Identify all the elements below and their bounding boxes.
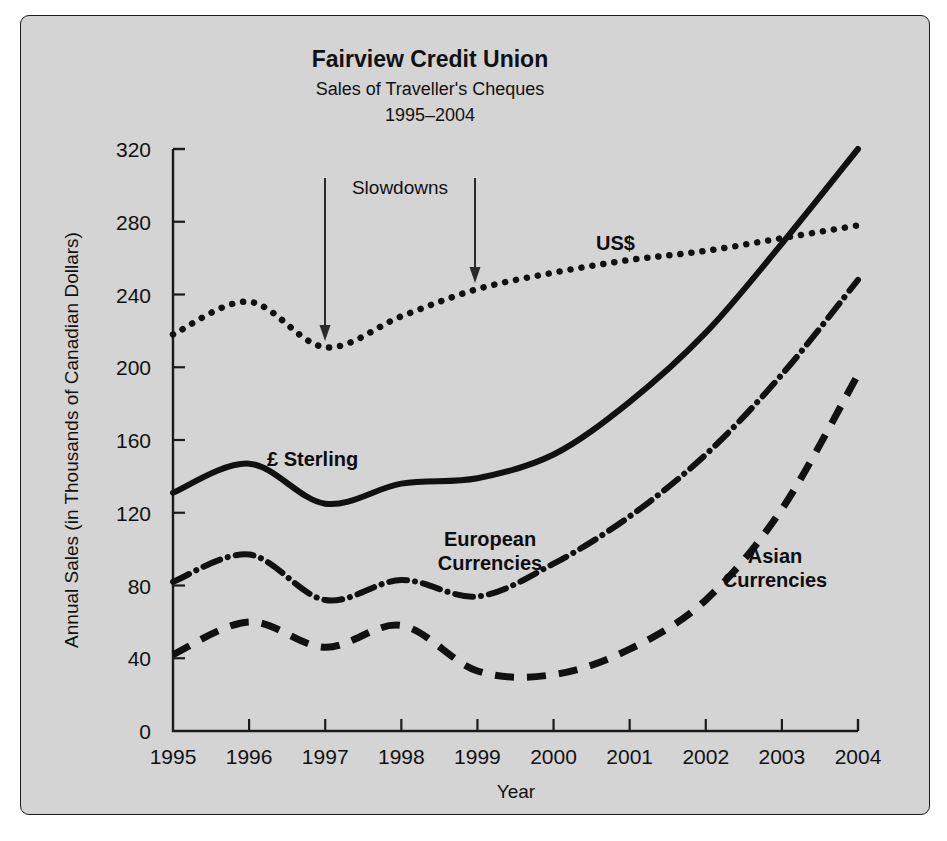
y-tick-label: 80: [128, 575, 151, 598]
series-line-asian: [173, 375, 858, 678]
axis-lines: [173, 149, 858, 731]
x-tick-label: 1997: [302, 745, 349, 768]
series-label-european-line1: European: [444, 528, 536, 550]
series-line-us-dollar: [173, 225, 858, 347]
y-tick-label: 280: [116, 211, 151, 234]
series-label-asian-line1: Asian: [748, 545, 802, 567]
x-axis-label: Year: [497, 781, 536, 802]
y-tick-label: 200: [116, 356, 151, 379]
x-tick-label: 1999: [454, 745, 501, 768]
y-axis-label: Annual Sales (in Thousands of Canadian D…: [61, 232, 82, 648]
annotation-slowdowns-arrow-1999: [470, 178, 481, 283]
x-tick-label: 2004: [835, 745, 882, 768]
series-label-european-line2: Currencies: [438, 552, 543, 574]
x-tick-label: 2000: [530, 745, 577, 768]
y-tick-label: 0: [139, 720, 151, 743]
y-tick-label: 320: [116, 138, 151, 161]
x-tick-label: 1996: [226, 745, 273, 768]
x-tick-label: 2001: [606, 745, 653, 768]
x-axis-ticks: [249, 719, 782, 731]
x-tick-label: 1998: [378, 745, 425, 768]
y-axis-tick-labels: 04080120160200240280320: [116, 138, 151, 743]
x-tick-label: 2002: [682, 745, 729, 768]
y-tick-label: 240: [116, 284, 151, 307]
chart-subtitle-years: 1995–2004: [385, 105, 475, 125]
chart-subtitle: Sales of Traveller's Cheques: [316, 79, 545, 99]
x-axis-tick-labels: 1995199619971998199920002001200220032004: [150, 745, 882, 768]
y-tick-label: 160: [116, 429, 151, 452]
chart-figure: Fairview Credit Union Sales of Traveller…: [0, 0, 947, 841]
annotation-slowdowns-label: Slowdowns: [352, 177, 448, 198]
x-tick-label: 2003: [759, 745, 806, 768]
chart-title: Fairview Credit Union: [312, 46, 548, 72]
series-label-sterling: £ Sterling: [267, 448, 358, 470]
x-tick-label: 1995: [150, 745, 197, 768]
series-label-asian-line2: Currencies: [723, 569, 828, 591]
annotation-slowdowns-arrow-1997: [320, 178, 331, 341]
series-label-us-dollar: US$: [596, 232, 635, 254]
y-tick-label: 40: [128, 647, 151, 670]
y-tick-label: 120: [116, 502, 151, 525]
y-axis-ticks: [173, 222, 185, 659]
